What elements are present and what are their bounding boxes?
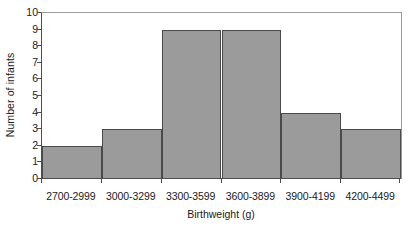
x-axis-title: Birthweight (g) <box>41 208 401 221</box>
x-axis-tick-label: 3900-4199 <box>280 190 340 202</box>
histogram-bar[interactable] <box>341 129 401 179</box>
y-axis-tick-label: 4 <box>22 107 38 117</box>
y-axis-title: Number of infants <box>2 0 18 190</box>
caption-remnant <box>34 229 374 235</box>
y-axis-tick-label: 10 <box>22 7 38 17</box>
x-axis-tick-mark <box>161 179 162 183</box>
y-axis-tick-labels: 012345678910 <box>20 0 38 237</box>
histogram-bar[interactable] <box>102 129 162 179</box>
x-axis-tick-mark <box>101 179 102 183</box>
histogram-bar[interactable] <box>42 146 102 179</box>
histogram-bar[interactable] <box>222 30 282 179</box>
histogram-bar[interactable] <box>162 30 222 179</box>
x-axis-tick-label: 3000-3299 <box>101 190 161 202</box>
x-axis-tick-marks <box>41 179 401 184</box>
y-axis-tick-label: 3 <box>22 123 38 133</box>
y-axis-tick-label: 7 <box>22 57 38 67</box>
x-axis-tick-label: 3600-3899 <box>221 190 281 202</box>
x-axis-tick-label: 2700-2999 <box>41 190 101 202</box>
bars-layer <box>42 13 401 179</box>
x-axis-tick-labels: 2700-29993000-32993300-35993600-38993900… <box>41 190 401 204</box>
y-axis-tick-label: 1 <box>22 156 38 166</box>
y-axis-tick-label: 0 <box>22 173 38 183</box>
x-axis-tick-label: 4200-4499 <box>340 190 400 202</box>
x-axis-tick-mark <box>41 179 42 183</box>
histogram-bar[interactable] <box>281 113 341 179</box>
x-axis-tick-label: 3300-3599 <box>161 190 221 202</box>
y-axis-tick-label: 8 <box>22 40 38 50</box>
y-axis-tick-label: 5 <box>22 90 38 100</box>
y-axis-tick-label: 2 <box>22 140 38 150</box>
x-axis-tick-mark <box>221 179 222 183</box>
histogram-figure: Number of infants 012345678910 2700-2999… <box>0 0 407 237</box>
plot-area <box>41 12 402 179</box>
x-axis-tick-mark <box>399 179 400 183</box>
y-axis-tick-label: 9 <box>22 24 38 34</box>
x-axis-tick-mark <box>340 179 341 183</box>
y-axis-tick-label: 6 <box>22 73 38 83</box>
x-axis-tick-mark <box>280 179 281 183</box>
